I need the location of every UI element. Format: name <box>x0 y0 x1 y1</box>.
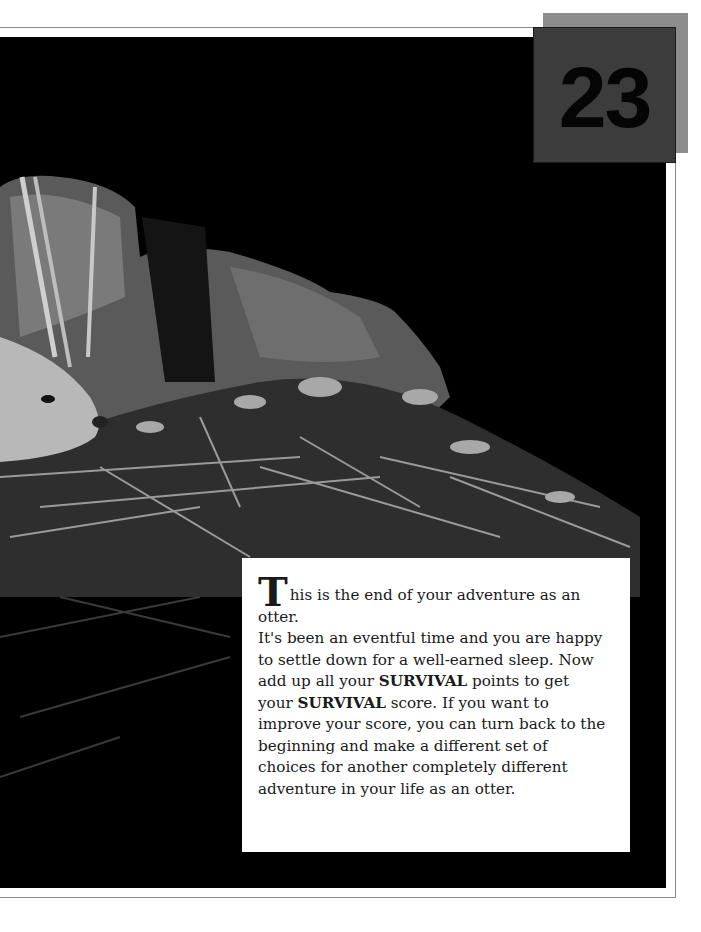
story-text-box: T his is the end of your adventure as an… <box>242 558 630 852</box>
survival-keyword: SURVIVAL <box>298 694 386 712</box>
page-number: 23 <box>559 54 651 140</box>
drop-cap: T <box>258 577 288 605</box>
first-line: his is the end of your adventure as an o… <box>258 576 608 628</box>
page-number-badge: 23 <box>533 27 676 163</box>
survival-keyword: SURVIVAL <box>379 672 467 690</box>
story-paragraph: T his is the end of your adventure as an… <box>258 576 608 800</box>
